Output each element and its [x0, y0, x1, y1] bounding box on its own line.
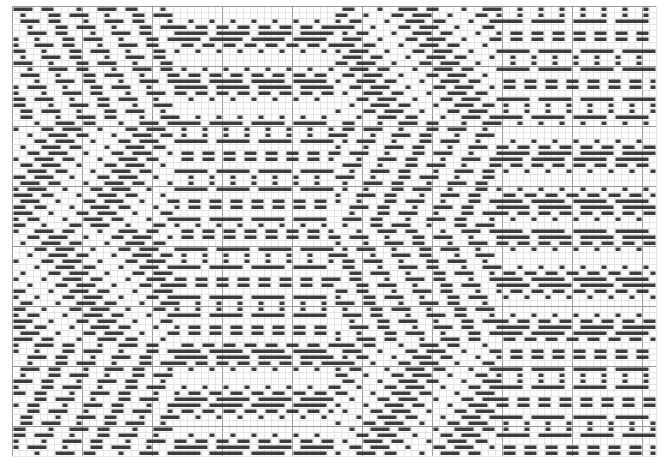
weave-draft-grid [12, 6, 657, 457]
draft-canvas [12, 6, 657, 457]
